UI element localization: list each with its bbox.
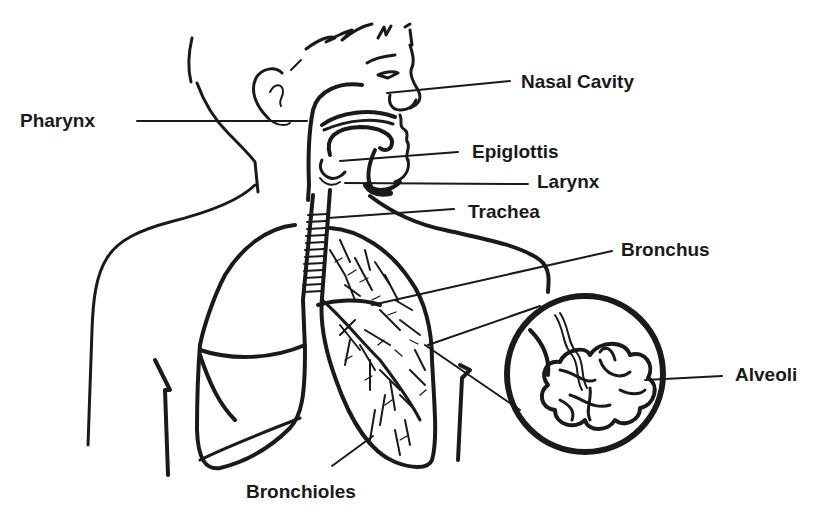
label-alveoli: Alveoli [735,365,797,384]
leader-bronchioles [332,436,373,466]
trachea [303,190,330,300]
leader-nasal-cavity [387,81,510,93]
left-lung [197,225,305,468]
label-larynx: Larynx [537,172,599,191]
respiratory-system-diagram: Pharynx Nasal Cavity Epiglottis Larynx T… [0,0,834,514]
label-trachea: Trachea [468,202,540,221]
leader-epiglottis [340,152,458,161]
right-lung [318,228,435,467]
alveoli-magnified-view [507,296,663,452]
label-epiglottis: Epiglottis [472,142,559,161]
label-nasal-cavity: Nasal Cavity [521,72,634,91]
label-bronchioles: Bronchioles [246,482,356,501]
leader-alveoli [645,376,722,380]
leader-larynx [345,183,528,184]
label-pharynx: Pharynx [20,111,95,130]
label-bronchus: Bronchus [621,240,710,259]
head-outline [189,24,420,192]
